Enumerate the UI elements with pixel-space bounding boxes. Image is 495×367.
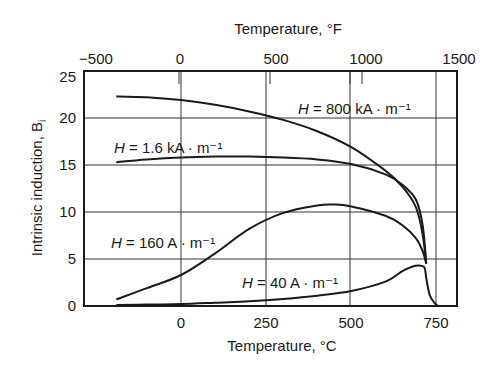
y-tick-labels: 0 5 10 15 20 25 [59,68,76,314]
x-tick: 0 [177,314,185,331]
x-tick: 250 [253,314,278,331]
top-axis-title: Temperature, °F [234,20,342,37]
y-tick: 15 [59,156,76,173]
y-axis-title: Intrinsic induction, Bi [28,120,48,256]
y-tick: 25 [59,68,76,85]
label-h160: H = 160 A · m⁻¹ [111,234,215,251]
y-tick: 5 [68,250,76,267]
x2-tick: 1000 [349,50,382,67]
y-tick: 10 [59,203,76,220]
x-tick: 500 [338,314,363,331]
x2-tick-labels: −500 0 500 1000 1500 [79,50,476,67]
label-h800: H = 800 kA · m⁻¹ [298,100,411,117]
bottom-axis-title: Temperature, °C [227,337,337,354]
chart: 0 5 10 15 20 25 0 250 500 750 −500 0 500… [0,0,495,367]
label-h40: H = 40 A · m⁻¹ [242,274,338,291]
x2-tick: 500 [263,50,288,67]
x-tick-labels: 0 250 500 750 [177,314,449,331]
x2-tick: 1500 [442,50,475,67]
x-tick: 750 [423,314,448,331]
y-tick: 0 [68,297,76,314]
label-h16: H = 1.6 kA · m⁻¹ [114,139,222,156]
y-tick: 20 [59,109,76,126]
x2-tick: 0 [176,50,184,67]
x2-tick: −500 [79,50,113,67]
top-ticks [179,71,362,84]
